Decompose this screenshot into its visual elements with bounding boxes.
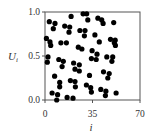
data-point <box>97 39 102 44</box>
data-point <box>55 92 60 97</box>
data-point <box>89 90 94 95</box>
data-point <box>62 24 67 29</box>
data-point <box>52 21 57 26</box>
data-point <box>69 14 74 19</box>
data-point <box>77 62 82 67</box>
data-point <box>47 19 52 24</box>
data-point <box>87 73 92 78</box>
data-point <box>85 17 90 22</box>
data-point <box>101 69 106 74</box>
data-point <box>79 46 84 51</box>
x-tick-label: 70 <box>135 109 145 119</box>
data-point <box>50 90 55 95</box>
data-point <box>51 26 56 31</box>
data-point <box>98 87 103 92</box>
data-point <box>90 48 95 53</box>
data-point <box>84 82 89 87</box>
data-points <box>44 11 119 102</box>
data-point <box>65 95 70 100</box>
data-point <box>92 32 97 37</box>
data-point <box>101 21 106 26</box>
data-point <box>56 57 61 62</box>
data-point <box>77 28 82 33</box>
data-point <box>105 75 110 80</box>
data-point <box>58 40 63 45</box>
data-point <box>104 54 109 59</box>
data-point <box>107 71 112 76</box>
data-point <box>68 78 73 83</box>
data-point <box>77 68 82 73</box>
data-point <box>82 33 87 38</box>
data-point <box>113 43 118 48</box>
x-tick-label: 0 <box>43 109 48 119</box>
x-axis-label: i <box>89 121 92 133</box>
y-axis-label: Ui <box>8 50 18 64</box>
y-tick-label: 0.5 <box>28 51 40 61</box>
y-tick-label: 0.0 <box>28 95 40 105</box>
y-tick-label: 1.0 <box>28 7 40 17</box>
data-point <box>48 43 53 48</box>
data-point <box>45 60 50 65</box>
data-point <box>52 74 57 79</box>
data-point <box>103 93 108 98</box>
data-point <box>111 20 116 25</box>
data-point <box>73 84 78 89</box>
data-point <box>110 54 115 59</box>
data-point <box>94 52 99 57</box>
data-point <box>84 11 89 16</box>
data-point <box>89 56 94 61</box>
data-point <box>71 60 76 65</box>
data-point <box>60 64 65 69</box>
data-point <box>103 89 108 94</box>
data-point <box>45 54 50 59</box>
data-point <box>113 38 118 43</box>
data-point <box>109 59 114 64</box>
data-point <box>114 90 119 95</box>
data-point <box>66 30 71 35</box>
data-point <box>70 96 75 101</box>
data-point <box>94 57 99 62</box>
data-point <box>54 97 59 102</box>
x-tick-label: 35 <box>88 109 98 119</box>
data-point <box>61 59 66 64</box>
scatter-chart: 1.0 0.5 0.0 0 35 70 i Ui <box>0 0 152 135</box>
data-point <box>57 80 62 85</box>
data-point <box>72 79 77 84</box>
data-point <box>82 28 87 33</box>
data-point <box>67 24 72 29</box>
data-point <box>64 40 69 45</box>
data-point <box>88 85 93 90</box>
